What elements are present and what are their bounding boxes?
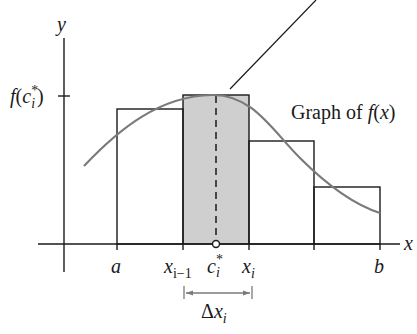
delta-x-arrow (184, 286, 252, 299)
x-label-x-i-minus-1: xi−1 (163, 255, 192, 281)
x-axis-label: x (403, 232, 413, 254)
x-label-x-i: xi (241, 255, 255, 281)
riemann-sum-diagram: y x f(c*i) a xi−1 c*i xi b Δxi Graph of … (0, 0, 417, 334)
x-label-a: a (111, 255, 121, 277)
x-label-c-i-star: c*i (207, 252, 223, 280)
x-label-b: b (374, 255, 384, 277)
rectangle-4 (314, 187, 380, 244)
y-tick-label: f(c*i) (10, 83, 44, 111)
sample-point-marker (213, 241, 220, 248)
delta-x-label: Δxi (201, 300, 227, 326)
graph-title-label: Graph of f(x) (291, 101, 395, 124)
rectangle-3 (249, 141, 314, 244)
y-axis-label: y (55, 13, 66, 36)
pointer-line (230, 0, 316, 89)
rectangle-1 (117, 109, 183, 244)
